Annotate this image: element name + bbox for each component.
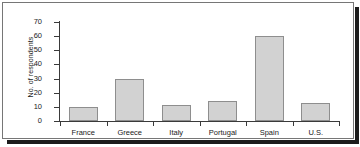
x-tick-mark (246, 122, 247, 126)
x-tick-mark (107, 122, 108, 126)
y-tick-mark (54, 64, 60, 65)
x-tick-label: France (60, 128, 107, 137)
x-tick-label: Spain (246, 128, 293, 137)
bar-chart: No. of respondents 010203040506070 Franc… (3, 3, 355, 140)
bar-portugal (208, 101, 237, 121)
y-tick-label: 50 (12, 46, 42, 54)
y-tick-label: 60 (12, 32, 42, 40)
x-tick-mark (293, 122, 294, 126)
y-tick-mark (54, 93, 60, 94)
bar-greece (115, 79, 144, 121)
y-tick-mark (54, 22, 60, 23)
x-tick-label: Italy (153, 128, 200, 137)
y-tick-label: 10 (12, 103, 42, 111)
bar-france (69, 107, 98, 121)
x-tick-label: Greece (107, 128, 154, 137)
y-tick-mark (54, 107, 60, 108)
x-tick-label: U.S. (293, 128, 340, 137)
x-tick-label: Portugal (200, 128, 247, 137)
x-tick-mark (339, 122, 340, 126)
y-tick-label: 40 (12, 60, 42, 68)
bar-spain (255, 36, 284, 121)
y-tick-label: 70 (12, 18, 42, 26)
figure-shadow-right (355, 7, 359, 144)
figure-shadow-bottom (7, 140, 359, 144)
y-tick-label: 0 (12, 117, 42, 125)
y-tick-mark (54, 79, 60, 80)
bar-u-s (301, 103, 330, 121)
y-tick-label: 30 (12, 75, 42, 83)
y-tick-mark (54, 50, 60, 51)
x-tick-mark (200, 122, 201, 126)
x-tick-mark (60, 122, 61, 126)
y-tick-mark (54, 36, 60, 37)
x-tick-mark (153, 122, 154, 126)
chart-figure-frame: No. of respondents 010203040506070 Franc… (2, 2, 354, 139)
y-tick-label: 20 (12, 89, 42, 97)
bar-italy (162, 105, 191, 121)
